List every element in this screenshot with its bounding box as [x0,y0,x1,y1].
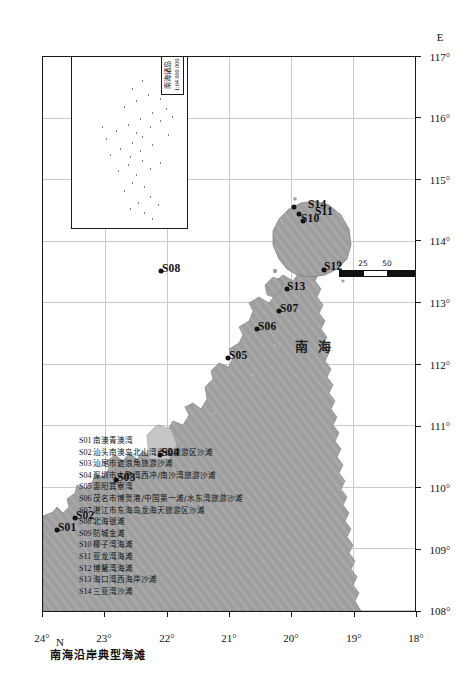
station-label-s01: S01 [58,521,77,533]
legend-code: S07 [79,505,91,514]
legend-item: S09防城金滩 [79,527,243,539]
scale-bar-graphic [339,270,416,277]
lat-tick-24: 24° [30,632,54,644]
legend-label: 南澳青澳湾 [93,436,133,445]
legend-item: S07湛江市东海岛龙海天旅游区沙滩 [79,504,243,516]
legend-label: 北海银滩 [93,517,125,526]
legend-code: S11 [79,551,91,560]
station-label-s07: S07 [280,302,299,314]
legend-item: S13海口湾西海岸沙滩 [79,574,243,586]
legend-item: S04深圳市大鹏湾西冲/南沙湾旅游沙滩 [79,469,243,481]
legend-code: S03 [79,459,91,468]
lon-tick-111: 111° [428,420,452,432]
legend-label: 惠阳巽寮湾 [93,482,133,491]
legend-code: S04 [79,470,91,479]
station-label-s06: S06 [258,320,277,332]
lon-tick-109: 109° [428,544,452,556]
legend-code: S08 [79,517,91,526]
legend-label: 海口湾西海岸沙滩 [93,575,157,584]
legend-list: S01南澳青澳湾 S02汕头南澳岛北山湾省级旅游区沙滩 S03汕尾市遮浪角旅游沙… [79,435,243,597]
scale-tick-50: 50 [382,259,392,268]
lon-tick-108: 108° [428,605,452,617]
legend-item: S02汕头南澳岛北山湾省级旅游区沙滩 [79,446,243,458]
legend-code: S13 [79,575,91,584]
legend-code: S14 [79,586,91,595]
lon-axis-unit: E [437,30,444,42]
legend-label: 亚龙湾海滩 [93,551,133,560]
lon-tick-114: 114° [428,235,452,247]
lat-tick-21: 21° [217,632,241,644]
legend-code: S10 [79,540,91,549]
legend-label: 防城金滩 [93,528,125,537]
lon-tick-113: 113° [428,297,452,309]
legend-label: 汕尾市遮浪角旅游沙滩 [93,459,173,468]
scale-tick-0: 0 [337,259,342,268]
scale-bar-ticks: 0 25 50 100 km [339,259,416,270]
station-label-s05: S05 [229,349,248,361]
inset-title: 南海诸岛 [164,58,173,91]
legend-label: 汕头南澳岛北山湾省级旅游区沙滩 [93,447,213,456]
sea-name-label: 南 海 [295,335,335,354]
lon-tick-110: 110° [428,482,452,494]
inset-caption: 南海诸岛 1:64 000 000 [161,56,184,95]
legend-label: 博鳌湾海滩 [93,563,133,572]
legend-label: 三亚湾沙滩 [93,586,133,595]
legend-item: S12博鳌湾海滩 [79,562,243,574]
legend-code: S01 [79,436,91,445]
legend-item: S11亚龙湾海滩 [79,550,243,562]
station-label-s14: S14 [308,198,327,210]
legend-item: S01南澳青澳湾 [79,435,243,447]
legend-code: S09 [79,528,91,537]
inset-scale: 1:64 000 000 [173,58,182,91]
lat-axis-unit: N [56,636,64,648]
lon-tick-115: 115° [428,174,452,186]
legend-label: 深圳市大鹏湾西冲/南沙湾旅游沙滩 [93,470,216,479]
legend-item: S03汕尾市遮浪角旅游沙滩 [79,458,243,470]
legend-code: S12 [79,563,91,572]
lon-tick-116: 116° [428,112,452,124]
map-plot-frame: S01 S02 S03 S04 S05 S06 S07 S08 S09 S10 … [42,56,416,612]
lon-tick-112: 112° [428,359,452,371]
station-label-s08: S08 [162,262,181,274]
station-label-s13: S13 [287,280,306,292]
lon-tick-117: 117° [428,51,452,63]
legend-item: S14三亚湾沙滩 [79,585,243,597]
legend-code: S05 [79,482,91,491]
rotated-map-canvas: 南海沿岸典型海滩 [16,20,454,668]
legend-label: 茂名市博贺港/中国第一滩/水东湾旅游沙滩 [93,493,242,502]
page-title: 南海沿岸典型海滩 [50,646,146,662]
map-figure-page: 南海沿岸典型海滩 [0,0,470,687]
scale-tick-25: 25 [358,259,368,268]
station-marker-s14[interactable] [292,204,297,209]
legend-label: 椰子湾海滩 [93,540,133,549]
lat-tick-19: 19° [342,632,366,644]
legend-code: S06 [79,493,91,502]
lat-tick-22: 22° [155,632,179,644]
lat-tick-23: 23° [92,632,116,644]
lat-tick-20: 20° [279,632,303,644]
legend-item: S05惠阳巽寮湾 [79,481,243,493]
legend-item: S06茂名市博贺港/中国第一滩/水东湾旅游沙滩 [79,492,243,504]
scale-bar: 0 25 50 100 km [339,259,416,277]
legend-item: S10椰子湾海滩 [79,539,243,551]
legend-label: 湛江市东海岛龙海天旅游区沙滩 [93,505,205,514]
lat-tick-18: 18° [404,632,428,644]
legend-item: S08北海银滩 [79,516,243,528]
inset-map: 南海诸岛 1:64 000 000 [71,56,188,229]
legend-code: S02 [79,447,91,456]
